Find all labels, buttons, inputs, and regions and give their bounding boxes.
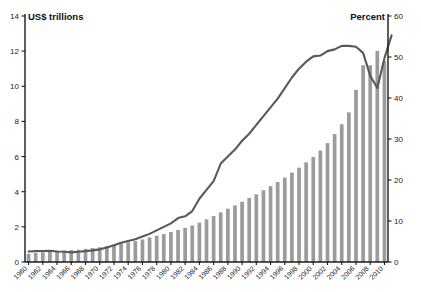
left-tick-label: 8 — [15, 117, 20, 126]
bar-item — [212, 216, 216, 262]
bar-item — [162, 234, 166, 262]
bottom-axis: 1960196219641966196819701972197419761978… — [12, 262, 388, 281]
bar-item — [126, 242, 130, 262]
bar-item — [41, 252, 45, 262]
x-tick-label: 1980 — [155, 265, 171, 281]
x-tick-label: 2010 — [368, 265, 384, 281]
bar-item — [112, 245, 116, 262]
bar-item — [383, 61, 387, 262]
bar-item — [133, 241, 137, 262]
left-tick-label: 12 — [10, 47, 19, 56]
bar-item — [276, 182, 280, 262]
bar-item — [240, 202, 244, 262]
bar-item — [141, 239, 145, 262]
bar-item — [169, 232, 173, 262]
bar-item — [176, 230, 180, 262]
bar-item — [205, 219, 209, 262]
x-tick-label: 1986 — [197, 265, 213, 281]
right-axis-title: Percent — [350, 11, 386, 22]
x-tick-label: 2000 — [297, 265, 313, 281]
bar-item — [226, 209, 230, 262]
x-tick-label: 1964 — [41, 265, 57, 281]
bar-item — [190, 226, 194, 262]
right-tick-label: 10 — [394, 217, 403, 226]
left-tick-label: 2 — [15, 223, 20, 232]
bar-item — [148, 237, 152, 262]
chart-container: 02468101214 0102030405060 19601962196419… — [0, 0, 421, 292]
x-tick-label: 1970 — [83, 265, 99, 281]
bar-item — [55, 251, 59, 262]
bar-item — [219, 212, 223, 262]
x-tick-label: 1960 — [12, 265, 28, 281]
right-tick-label: 30 — [394, 135, 403, 144]
right-axis: 0102030405060 — [388, 12, 403, 267]
x-tick-label: 1984 — [183, 265, 199, 281]
x-tick-label: 1996 — [269, 265, 285, 281]
bar-item — [233, 205, 237, 262]
x-tick-label: 1974 — [112, 265, 128, 281]
bar-item — [269, 186, 273, 262]
bar-item — [34, 253, 38, 262]
x-tick-label: 1976 — [126, 265, 142, 281]
x-tick-label: 1990 — [226, 265, 242, 281]
bar-item — [347, 112, 351, 262]
line-series — [29, 35, 392, 252]
x-tick-label: 1962 — [27, 265, 43, 281]
bar-item — [354, 90, 358, 262]
bar-item — [119, 244, 123, 262]
right-tick-label: 40 — [394, 94, 403, 103]
left-tick-label: 10 — [10, 82, 19, 91]
x-tick-label: 1966 — [55, 265, 71, 281]
x-tick-label: 1978 — [140, 265, 156, 281]
x-tick-label: 2002 — [311, 265, 327, 281]
bar-item — [254, 194, 258, 262]
bar-item — [333, 134, 337, 262]
left-axis: 02468101214 — [10, 12, 25, 267]
x-tick-label: 1982 — [169, 265, 185, 281]
x-tick-label: 2004 — [325, 265, 341, 281]
bar-series — [27, 51, 387, 262]
bar-item — [262, 190, 266, 262]
bar-item — [198, 223, 202, 262]
x-tick-label: 1988 — [212, 265, 228, 281]
bar-item — [283, 178, 287, 262]
bar-item — [326, 143, 330, 262]
bar-item — [290, 173, 294, 262]
bar-item — [48, 251, 52, 262]
bar-item — [27, 254, 31, 262]
bar-item — [340, 124, 344, 262]
bar-item — [368, 65, 372, 262]
left-tick-label: 4 — [15, 188, 20, 197]
bar-item — [311, 157, 315, 262]
right-tick-label: 20 — [394, 176, 403, 185]
left-axis-title: US$ trillions — [28, 11, 83, 22]
x-tick-label: 1992 — [240, 265, 256, 281]
bar-item — [297, 168, 301, 262]
bar-item — [155, 236, 159, 262]
x-tick-label: 1998 — [283, 265, 299, 281]
bar-item — [247, 198, 251, 262]
chart-svg: 02468101214 0102030405060 19601962196419… — [0, 0, 421, 292]
x-tick-label: 2006 — [340, 265, 356, 281]
right-tick-label: 60 — [394, 12, 403, 21]
left-tick-label: 0 — [15, 258, 20, 267]
right-tick-label: 0 — [394, 258, 399, 267]
bar-item — [304, 162, 308, 262]
x-tick-label: 1994 — [254, 265, 270, 281]
bar-item — [319, 150, 323, 262]
left-tick-label: 14 — [10, 12, 19, 21]
left-tick-label: 6 — [15, 153, 20, 162]
x-tick-label: 1968 — [69, 265, 85, 281]
bar-item — [183, 228, 187, 262]
right-tick-label: 50 — [394, 53, 403, 62]
x-tick-label: 2008 — [354, 265, 370, 281]
bar-item — [361, 65, 365, 262]
x-tick-label: 1972 — [98, 265, 114, 281]
